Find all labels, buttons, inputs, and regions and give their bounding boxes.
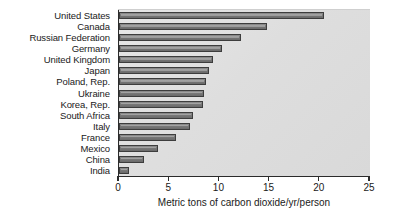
- category-label: Japan: [85, 65, 110, 76]
- category-label: United Kingdom: [44, 54, 110, 65]
- bar: [119, 145, 158, 152]
- bar: [119, 101, 203, 108]
- x-tick-label: 15: [256, 182, 282, 194]
- bar: [119, 45, 222, 52]
- x-axis-title: Metric tons of carbon dioxide/yr/person: [118, 197, 370, 209]
- bar-highlight: [121, 147, 156, 149]
- category-label: Italy: [93, 121, 110, 132]
- bar-highlight: [121, 169, 127, 171]
- x-tick-label: 10: [205, 182, 231, 194]
- bar-highlight: [121, 103, 201, 105]
- category-label: Ukraine: [78, 88, 110, 99]
- x-tick-mark: [268, 176, 269, 181]
- x-tick-mark: [318, 176, 319, 181]
- x-tick-label: 0: [105, 182, 131, 194]
- bar: [119, 134, 176, 141]
- bar: [119, 78, 206, 85]
- bar-highlight: [121, 36, 239, 38]
- bar-highlight: [121, 136, 174, 138]
- bar-highlight: [121, 92, 202, 94]
- bar: [119, 34, 241, 41]
- category-label: Korea, Rep.: [60, 99, 110, 110]
- bar-highlight: [121, 114, 191, 116]
- category-label: Canada: [77, 21, 110, 32]
- category-label: Poland, Rep.: [56, 76, 110, 87]
- bar-highlight: [121, 69, 207, 71]
- x-tick-mark: [368, 176, 369, 181]
- bar-highlight: [121, 80, 204, 82]
- category-axis-labels: United StatesCanadaRussian FederationGer…: [0, 10, 114, 176]
- bar: [119, 12, 324, 19]
- category-label: Russian Federation: [29, 32, 110, 43]
- bar: [119, 167, 129, 174]
- bar-highlight: [121, 14, 322, 16]
- x-tick-mark: [168, 176, 169, 181]
- bar-highlight: [121, 47, 220, 49]
- bar-chart-figure: United StatesCanadaRussian FederationGer…: [0, 0, 393, 219]
- bar: [119, 156, 144, 163]
- bar: [119, 67, 209, 74]
- x-tick-label: 25: [356, 182, 382, 194]
- category-label: Germany: [72, 43, 110, 54]
- x-tick-label: 5: [155, 182, 181, 194]
- category-label: South Africa: [60, 110, 110, 121]
- bar-highlight: [121, 58, 211, 60]
- plot-area: [118, 10, 370, 177]
- bar: [119, 90, 204, 97]
- bar-highlight: [121, 25, 265, 27]
- category-label: India: [90, 165, 110, 176]
- bar-highlight: [121, 125, 188, 127]
- category-label: France: [81, 132, 110, 143]
- bar: [119, 123, 190, 130]
- category-label: Mexico: [81, 143, 111, 154]
- bar: [119, 56, 213, 63]
- category-label: United States: [54, 10, 110, 21]
- bar: [119, 112, 193, 119]
- bar: [119, 23, 267, 30]
- x-tick-mark: [218, 176, 219, 181]
- category-label: China: [86, 154, 110, 165]
- x-tick-label: 20: [306, 182, 332, 194]
- x-tick-mark: [117, 176, 118, 181]
- bar-highlight: [121, 158, 142, 160]
